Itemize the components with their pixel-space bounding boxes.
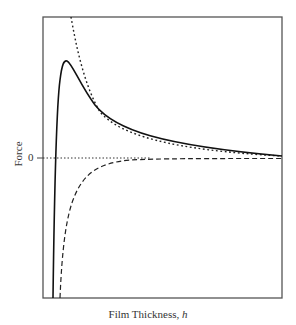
- y-axis-label: Force: [12, 137, 28, 171]
- repulsive-force-curve: [71, 17, 282, 156]
- x-axis-label-text: Film Thickness,: [109, 308, 182, 320]
- x-axis-label-variable: h: [182, 308, 188, 320]
- attractive-force-curve: [60, 159, 282, 299]
- force-vs-thickness-plot: [0, 0, 296, 325]
- y-tick-zero: 0: [28, 151, 34, 163]
- total-force-curve: [53, 61, 282, 298]
- x-axis-label: Film Thickness, h: [0, 308, 296, 320]
